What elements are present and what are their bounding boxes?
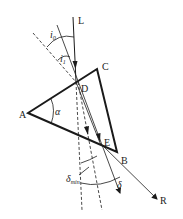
label-A: A <box>19 109 27 120</box>
label-delta: δ <box>117 179 122 190</box>
label-i0: i0 <box>50 29 56 41</box>
dashed-arrow-icon <box>84 126 89 135</box>
dashed-vertical-1 <box>76 82 82 210</box>
label-alpha: α <box>55 106 61 117</box>
label-C: C <box>102 61 109 72</box>
label-E: E <box>104 137 110 148</box>
arc-delta-min <box>81 156 97 163</box>
label-delta-min: δmin <box>66 173 80 185</box>
refracted-arrow-icon <box>96 133 101 142</box>
label-i1: i1 <box>60 53 66 65</box>
dashed-vertical-2 <box>78 82 102 210</box>
arc-alpha <box>51 99 54 124</box>
emergent-ray <box>100 143 157 199</box>
label-R: R <box>160 195 167 206</box>
prism-diagram: L C D A E B R i0 i1 α δ δmin <box>0 0 183 219</box>
label-L: L <box>78 15 84 26</box>
delta-min-pointer <box>79 167 89 175</box>
label-B: B <box>121 155 128 166</box>
label-D: D <box>81 83 88 94</box>
